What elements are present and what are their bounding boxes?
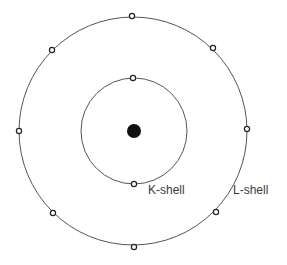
electron (50, 210, 55, 215)
electron (244, 126, 249, 131)
atom-diagram (0, 0, 287, 265)
electron (131, 181, 136, 186)
electron (16, 128, 21, 133)
k-shell-label: K-shell (148, 184, 185, 196)
l-shell-label: L-shell (233, 184, 268, 196)
electron (210, 45, 215, 50)
electron (213, 209, 218, 214)
electron (130, 75, 135, 80)
electron (49, 47, 54, 52)
nucleus (127, 124, 141, 138)
electron (131, 244, 136, 249)
electron (129, 13, 134, 18)
